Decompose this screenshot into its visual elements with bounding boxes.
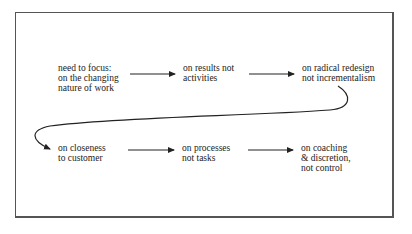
- arrow-n3-n4-curved: [35, 86, 348, 149]
- arrows-layer: [0, 0, 412, 234]
